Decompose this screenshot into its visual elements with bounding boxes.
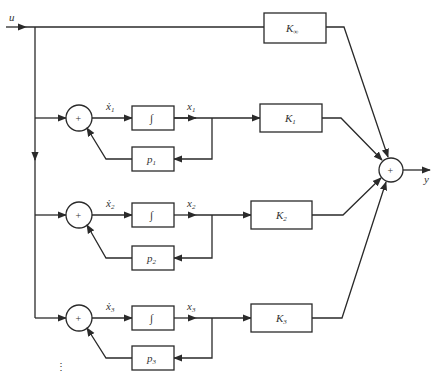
branch-1-xdot-label: ẋ1 [105, 100, 114, 114]
output-sum-junction: + y [379, 158, 430, 185]
svg-text:+: + [76, 210, 82, 221]
parallel-realization-block-diagram: u K∞ + ẋ1 ∫ x1 K1 p1 [0, 0, 446, 382]
branch-2-xdot-label: ẋ2 [105, 197, 115, 211]
branch-3-x-label: x3 [186, 300, 196, 314]
svg-text:+: + [76, 313, 82, 324]
branch-2-x-label: x2 [186, 197, 196, 211]
feedthrough-gain-block: K∞ [264, 13, 388, 157]
branch-1-x-label: x1 [186, 100, 195, 114]
branch-1: + ẋ1 ∫ x1 K1 p1 [35, 100, 382, 171]
continuation-ellipsis: ⋮ [56, 361, 66, 372]
svg-text:+: + [388, 165, 394, 176]
input-signal: u [6, 11, 264, 27]
branch-2: + ẋ2 ∫ x2 K2 p2 [35, 178, 381, 270]
input-label: u [9, 11, 15, 23]
svg-text:+: + [76, 113, 82, 124]
branch-3-xdot-label: ẋ3 [105, 300, 115, 314]
output-label: y [423, 173, 429, 185]
